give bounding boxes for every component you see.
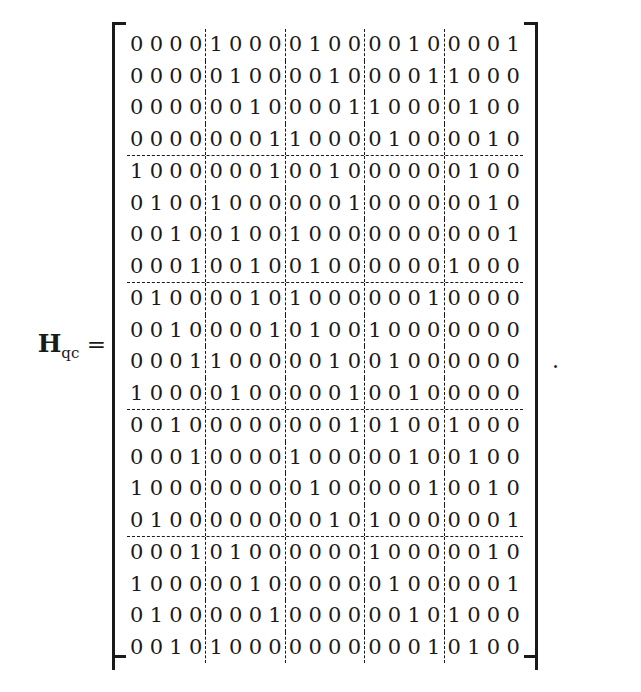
matrix-cell: 0 — [424, 442, 444, 474]
matrix-cell: 0 — [226, 442, 246, 474]
matrix-cell: 0 — [424, 124, 444, 156]
matrix-cell: 1 — [424, 473, 444, 505]
matrix-cell: 0 — [166, 505, 186, 537]
matrix-block: 0010 — [205, 283, 284, 315]
matrix-cell: 1 — [265, 124, 285, 156]
matrix-cell: 1 — [206, 632, 226, 664]
matrix-cell: 1 — [345, 92, 365, 124]
matrix-row: 00010010010000001000 — [127, 251, 523, 283]
matrix-block: 1000 — [127, 569, 205, 601]
matrix-cell: 0 — [206, 61, 226, 93]
matrix-cell: 0 — [345, 537, 365, 569]
matrix-cell: 1 — [206, 346, 226, 378]
matrix-cell: 0 — [147, 569, 167, 601]
matrix-cell: 0 — [464, 569, 484, 601]
matrix-cell: 1 — [186, 442, 206, 474]
matrix-cell: 0 — [484, 283, 504, 315]
matrix-block: 0001 — [285, 92, 364, 124]
matrix-cell: 0 — [186, 473, 206, 505]
matrix-cell: 0 — [445, 92, 465, 124]
matrix-block: 0001 — [127, 442, 205, 474]
matrix-cell: 0 — [424, 251, 444, 283]
matrix-block: 1000 — [127, 378, 205, 410]
matrix-cell: 0 — [464, 378, 484, 410]
matrix-block: 1000 — [444, 61, 523, 93]
matrix-block-row: 0000100001000010000100000100001000011000… — [127, 29, 523, 155]
matrix-block: 0000 — [205, 442, 284, 474]
matrix-cell: 0 — [503, 410, 523, 442]
matrix-block: 0100 — [444, 442, 523, 474]
matrix-cell: 0 — [206, 92, 226, 124]
matrix-cell: 1 — [365, 537, 385, 569]
matrix-cell: 0 — [286, 251, 306, 283]
matrix-cell: 0 — [385, 315, 405, 347]
left-square-bracket — [112, 22, 126, 670]
matrix-cell: 0 — [445, 346, 465, 378]
matrix-block: 1000 — [364, 505, 443, 537]
matrix-block: 0100 — [127, 188, 205, 220]
matrix-cell: 0 — [206, 219, 226, 251]
matrix-cell: 1 — [305, 315, 325, 347]
matrix-cell: 0 — [305, 537, 325, 569]
matrix-cell: 0 — [464, 29, 484, 61]
matrix-cell: 0 — [166, 537, 186, 569]
matrix-block: 0001 — [444, 505, 523, 537]
matrix-cell: 0 — [246, 346, 266, 378]
matrix-block: 0000 — [205, 505, 284, 537]
matrix-cell: 0 — [503, 61, 523, 93]
matrix-cell: 0 — [464, 537, 484, 569]
matrix-block: 0010 — [205, 92, 284, 124]
matrix-cell: 0 — [127, 61, 147, 93]
matrix-block: 0000 — [364, 251, 443, 283]
matrix-cell: 0 — [365, 156, 385, 188]
matrix-cell: 0 — [166, 283, 186, 315]
matrix-cell: 0 — [503, 92, 523, 124]
matrix-cell: 0 — [305, 61, 325, 93]
matrix-cell: 0 — [186, 569, 206, 601]
matrix-cell: 0 — [305, 92, 325, 124]
matrix-cell: 0 — [503, 537, 523, 569]
matrix-cell: 0 — [365, 251, 385, 283]
matrix-cell: 0 — [385, 473, 405, 505]
matrix-cell: 0 — [424, 315, 444, 347]
matrix-block: 1000 — [127, 473, 205, 505]
matrix-block: 0010 — [285, 346, 364, 378]
matrix-block: 0010 — [444, 537, 523, 569]
matrix-block: 0001 — [205, 156, 284, 188]
matrix-row: 10000100000100100000 — [127, 378, 523, 410]
matrix-cell: 0 — [325, 124, 345, 156]
matrix-cell: 1 — [166, 315, 186, 347]
matrix-cell: 0 — [127, 283, 147, 315]
matrix-cell: 0 — [345, 283, 365, 315]
matrix-cell: 0 — [404, 410, 424, 442]
matrix-cell: 1 — [445, 61, 465, 93]
matrix-cell: 0 — [445, 505, 465, 537]
matrix-cell: 0 — [166, 29, 186, 61]
matrix-cell: 0 — [305, 283, 325, 315]
matrix-cell: 1 — [246, 92, 266, 124]
matrix-block: 0010 — [205, 569, 284, 601]
matrix-cell: 0 — [464, 124, 484, 156]
matrix-cell: 1 — [246, 569, 266, 601]
matrix-block: 0010 — [285, 61, 364, 93]
matrix-row: 00010100000010000010 — [127, 537, 523, 569]
matrix-block: 0001 — [444, 569, 523, 601]
matrix-cell: 0 — [484, 505, 504, 537]
matrix-cell: 0 — [305, 219, 325, 251]
matrix-cell: 0 — [226, 156, 246, 188]
matrix-cell: 1 — [365, 505, 385, 537]
matrix-cell: 1 — [464, 442, 484, 474]
matrix-block: 0010 — [444, 188, 523, 220]
matrix-cell: 0 — [365, 29, 385, 61]
matrix-cell: 1 — [166, 219, 186, 251]
matrix-cell: 0 — [325, 378, 345, 410]
matrix-cell: 0 — [484, 61, 504, 93]
matrix-cell: 0 — [147, 61, 167, 93]
matrix-block: 0010 — [364, 442, 443, 474]
matrix-cell: 0 — [186, 188, 206, 220]
matrix-cell: 0 — [385, 537, 405, 569]
matrix-equation: Hqc= 00001000010000100001000001000010000… — [0, 0, 641, 692]
matrix-cell: 1 — [484, 473, 504, 505]
trailing-period: . — [552, 350, 559, 372]
matrix-block: 1000 — [127, 156, 205, 188]
